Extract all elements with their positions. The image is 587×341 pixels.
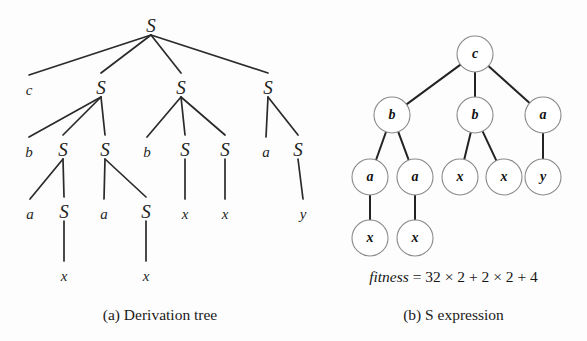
fitness-operand: 2	[506, 268, 518, 285]
nonterminal-node-S: S	[96, 77, 106, 98]
s-expression-node-x: x	[486, 159, 522, 195]
s-expression-node-x: x	[352, 220, 388, 256]
fitness-label: fitness	[369, 268, 409, 285]
s-expression-edge	[407, 65, 461, 105]
tree-edge	[63, 159, 64, 197]
nonterminal-node-S: S	[58, 139, 68, 160]
tree-edge	[101, 97, 105, 135]
s-expression-edge	[376, 132, 386, 160]
s-expression-node-b: b	[374, 97, 410, 133]
nonterminal-node-S: S	[180, 139, 190, 160]
node-label: a	[540, 107, 547, 122]
fitness-equation: fitness = 32 × 2 + 2 × 2 + 4	[320, 268, 587, 286]
fitness-operand: 2	[482, 268, 494, 285]
fitness-operand: 32	[425, 268, 444, 285]
tree-edge	[29, 97, 101, 137]
tree-edge	[266, 97, 268, 137]
caption-s-expression: (b) S expression	[320, 306, 587, 324]
s-expression-node-y: y	[525, 159, 561, 195]
node-label: c	[472, 46, 479, 61]
tree-edge	[147, 97, 181, 137]
tree-edge	[151, 35, 268, 73]
nonterminal-node-S: S	[100, 139, 110, 160]
terminal-node-x: x	[142, 268, 150, 284]
s-expression-node-b: b	[457, 97, 493, 133]
tree-edge	[30, 159, 63, 199]
terminal-node-x: x	[181, 206, 189, 222]
tree-edge	[181, 97, 225, 135]
node-label: b	[389, 107, 396, 122]
terminal-node-a: a	[262, 144, 270, 160]
nonterminal-node-S: S	[59, 201, 69, 222]
node-label: x	[411, 230, 419, 245]
s-expression-node-x: x	[442, 159, 478, 195]
s-expression-node-c: c	[457, 36, 493, 72]
fitness-operator: ×	[493, 268, 506, 285]
node-label: a	[412, 169, 419, 184]
node-label: y	[538, 169, 547, 184]
figure-root: ScSSSbSSbSSaSaSaSxxyxx cbbaaaxxyxx fitne…	[0, 0, 587, 341]
terminal-node-b: b	[143, 144, 151, 160]
nonterminal-node-S: S	[176, 77, 186, 98]
nonterminal-node-S: S	[220, 139, 230, 160]
derivation-tree-nodes: ScSSSbSSbSSaSaSaSxxyxx	[25, 15, 306, 284]
terminal-node-a: a	[26, 206, 34, 222]
terminal-node-c: c	[26, 82, 33, 98]
fitness-operator: ×	[445, 268, 458, 285]
node-label: x	[366, 230, 374, 245]
caption-derivation-tree: (a) Derivation tree	[0, 306, 320, 324]
tree-edge	[63, 97, 101, 135]
nonterminal-node-S: S	[293, 139, 303, 160]
node-label: a	[367, 169, 374, 184]
node-label: x	[500, 169, 508, 184]
tree-edge	[298, 159, 303, 199]
terminal-node-x: x	[60, 268, 68, 284]
s-expression-node-a: a	[352, 159, 388, 195]
s-expression-edges	[370, 65, 543, 220]
nonterminal-node-S: S	[146, 15, 156, 36]
tree-edge	[105, 159, 146, 197]
s-expression-edge	[464, 132, 471, 159]
fitness-operand: 4	[530, 268, 538, 285]
s-expression-nodes: cbbaaaxxyxx	[352, 36, 561, 256]
fitness-operator: +	[517, 268, 530, 285]
tree-edge	[181, 97, 185, 135]
s-expression-node-a: a	[397, 159, 433, 195]
terminal-node-a: a	[100, 206, 108, 222]
tree-edge	[101, 35, 151, 73]
figure-canvas: ScSSSbSSbSSaSaSaSxxyxx cbbaaaxxyxx	[0, 0, 587, 341]
fitness-operator: +	[469, 268, 482, 285]
fitness-equals-sign: =	[409, 268, 426, 285]
terminal-node-b: b	[25, 144, 33, 160]
s-expression-edge	[488, 66, 529, 103]
node-label: x	[456, 169, 464, 184]
nonterminal-node-S: S	[141, 201, 151, 222]
s-expression-edge	[483, 131, 497, 160]
terminal-node-x: x	[221, 206, 229, 222]
terminal-node-y: y	[298, 206, 307, 222]
tree-edge	[29, 35, 151, 75]
node-label: b	[472, 107, 479, 122]
tree-edge	[268, 97, 298, 135]
s-expression-node-x: x	[397, 220, 433, 256]
nonterminal-node-S: S	[263, 77, 273, 98]
tree-edge	[104, 159, 105, 199]
s-expression-node-a: a	[525, 97, 561, 133]
s-expression-edge	[398, 132, 408, 160]
fitness-operand: 2	[457, 268, 469, 285]
